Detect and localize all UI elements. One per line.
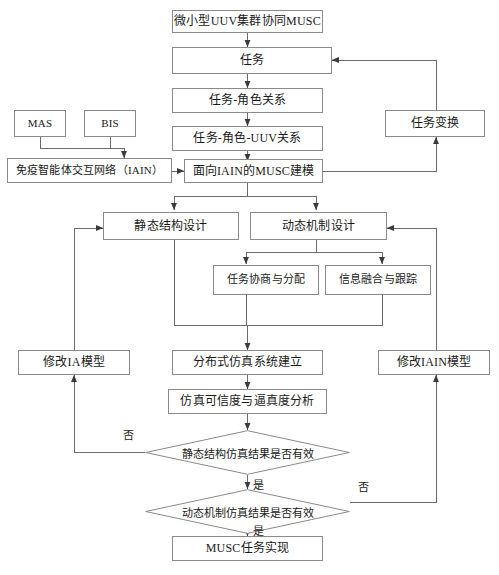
node-task-role: 任务-角色关系 (172, 88, 323, 113)
node-iain-musc-model: 面向IAIN的MUSC建模 (184, 159, 323, 183)
node-mas: MAS (14, 110, 66, 137)
decision-dynamic: 动态机制仿真结果是否有效 (145, 489, 350, 534)
node-modify-ia: 修改IA模型 (18, 350, 130, 375)
node-info-fusion: 信息融合与跟踪 (325, 265, 431, 295)
edge-label-no-static: 否 (123, 426, 134, 442)
node-task-negotiation: 任务协商与分配 (213, 265, 319, 295)
node-task: 任务 (172, 47, 332, 74)
node-task-transform: 任务变换 (385, 110, 485, 137)
node-distributed-sim: 分布式仿真系统建立 (172, 350, 323, 375)
edge-label-yes-static: 是 (253, 476, 264, 492)
edge-label-no-dynamic: 否 (358, 478, 369, 494)
flowchart-canvas: 微小型UUV集群协同MUSC 任务 任务-角色关系 任务-角色-UUV关系 面向… (0, 0, 499, 575)
node-bis: BIS (84, 110, 136, 137)
decision-dynamic-label: 动态机制仿真结果是否有效 (145, 489, 350, 534)
node-modify-iain: 修改IAIN模型 (378, 350, 490, 375)
decision-static: 静态结构仿真结果是否有效 (145, 430, 350, 475)
decision-static-label: 静态结构仿真结果是否有效 (145, 430, 350, 475)
edge-label-yes-dynamic: 是 (253, 522, 264, 538)
node-task-role-uuv: 任务-角色-UUV关系 (172, 126, 323, 151)
node-static-structure-design: 静态结构设计 (103, 212, 239, 240)
node-dynamic-mechanism-design: 动态机制设计 (250, 212, 387, 240)
node-musc-title: 微小型UUV集群协同MUSC (172, 10, 323, 33)
node-iain: 免疫智能体交互网络（IAIN） (7, 158, 172, 183)
node-musc-task-realize: MUSC任务实现 (172, 536, 323, 561)
node-sim-credibility: 仿真可信度与逼真度分析 (168, 389, 327, 414)
